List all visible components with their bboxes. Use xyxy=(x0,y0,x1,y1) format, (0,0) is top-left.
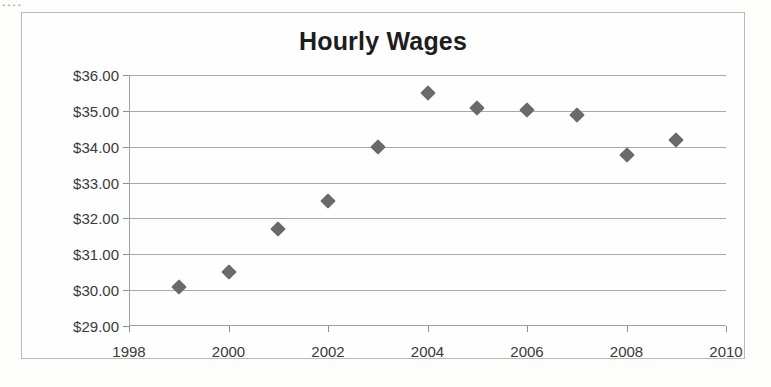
y-axis-label: $32.00 xyxy=(73,210,119,227)
y-axis-tick xyxy=(123,75,129,76)
gridline-y xyxy=(129,290,726,291)
data-point-marker xyxy=(469,100,485,116)
x-axis-tick xyxy=(129,326,130,332)
x-axis-tick xyxy=(726,326,727,332)
y-axis-label: $29.00 xyxy=(73,318,119,335)
chart-title: Hourly Wages xyxy=(22,27,744,56)
data-point-marker xyxy=(171,279,187,295)
y-axis-tick xyxy=(123,147,129,148)
plot-area: $29.00$30.00$31.00$32.00$33.00$34.00$35.… xyxy=(129,75,726,326)
data-point-marker xyxy=(668,132,684,148)
y-axis-line xyxy=(129,75,130,326)
scan-artifact-text: .... xyxy=(2,0,23,10)
data-point-marker xyxy=(370,139,386,155)
y-axis-tick xyxy=(123,218,129,219)
x-axis-label: 2006 xyxy=(510,343,543,360)
y-axis-label: $35.00 xyxy=(73,102,119,119)
x-axis-label: 1998 xyxy=(112,343,145,360)
y-axis-label: $31.00 xyxy=(73,246,119,263)
x-axis-label: 2004 xyxy=(411,343,444,360)
data-point-marker xyxy=(320,193,336,209)
gridline-y xyxy=(129,218,726,219)
data-point-marker xyxy=(569,107,585,123)
y-axis-tick xyxy=(123,290,129,291)
x-axis-tick xyxy=(428,326,429,332)
x-axis-label: 2010 xyxy=(709,343,742,360)
y-axis-tick xyxy=(123,183,129,184)
y-axis-label: $34.00 xyxy=(73,138,119,155)
gridline-y xyxy=(129,147,726,148)
x-axis-tick xyxy=(328,326,329,332)
gridline-y xyxy=(129,111,726,112)
data-point-marker xyxy=(270,221,286,237)
y-axis-tick xyxy=(123,254,129,255)
gridline-y xyxy=(129,75,726,76)
x-axis-label: 2008 xyxy=(610,343,643,360)
scanned-page: .... Hourly Wages $29.00$30.00$31.00$32.… xyxy=(0,0,771,387)
gridline-y xyxy=(129,254,726,255)
data-point-marker xyxy=(619,147,635,163)
x-axis-label: 2002 xyxy=(311,343,344,360)
x-axis-tick xyxy=(627,326,628,332)
x-axis-tick xyxy=(229,326,230,332)
y-axis-tick xyxy=(123,111,129,112)
data-point-marker xyxy=(519,102,535,118)
y-axis-label: $30.00 xyxy=(73,282,119,299)
x-axis-tick xyxy=(527,326,528,332)
data-point-marker xyxy=(221,264,237,280)
y-axis-label: $36.00 xyxy=(73,67,119,84)
chart-container: Hourly Wages $29.00$30.00$31.00$32.00$33… xyxy=(21,12,745,359)
data-point-marker xyxy=(420,85,436,101)
x-axis-label: 2000 xyxy=(212,343,245,360)
gridline-y xyxy=(129,183,726,184)
y-axis-label: $33.00 xyxy=(73,174,119,191)
